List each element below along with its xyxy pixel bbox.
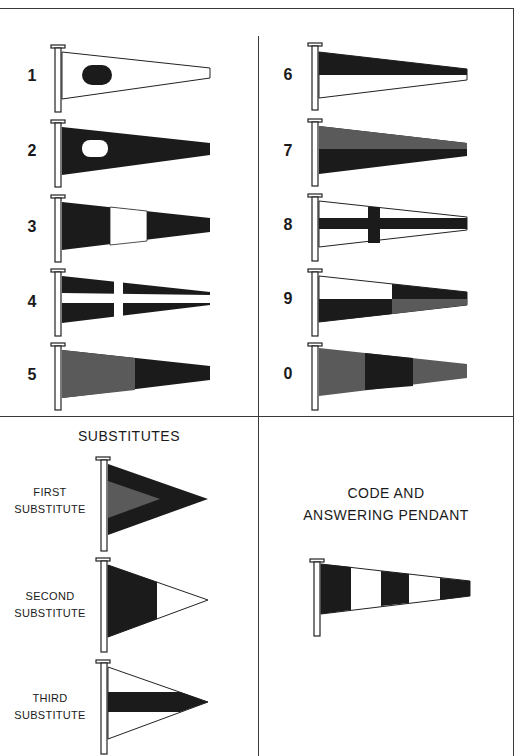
frame-right-border bbox=[513, 8, 514, 756]
substitutes-title: SUBSTITUTES bbox=[0, 428, 258, 444]
second-substitute-label: SECOND SUBSTITUTE bbox=[0, 588, 100, 622]
pendant-label-4: 4 bbox=[22, 293, 42, 311]
frame-top-border bbox=[0, 8, 514, 9]
flagpole-icon bbox=[96, 457, 110, 551]
pendant-label-3: 3 bbox=[22, 218, 42, 236]
pendant-label-2: 2 bbox=[22, 142, 42, 160]
pendant-8-flag bbox=[310, 193, 480, 261]
pendant-5-flag bbox=[50, 342, 220, 410]
pendant-1-flag bbox=[50, 44, 220, 112]
code-pendant-flag bbox=[312, 558, 482, 636]
pendant-label-7: 7 bbox=[278, 142, 298, 160]
pendant-label-1: 1 bbox=[22, 67, 42, 85]
pendant-3-flag bbox=[50, 194, 220, 262]
pendant-2-flag bbox=[50, 119, 220, 187]
pendant-label-6: 6 bbox=[278, 66, 298, 84]
first-substitute-label: FIRST SUBSTITUTE bbox=[0, 484, 100, 518]
pendant-7-flag bbox=[310, 118, 480, 186]
pendant-label-9: 9 bbox=[278, 290, 298, 308]
pendant-label-5: 5 bbox=[22, 366, 42, 384]
third-substitute-flag bbox=[95, 659, 215, 754]
pendant-label-8: 8 bbox=[278, 216, 298, 234]
pendant-label-0: 0 bbox=[278, 365, 298, 383]
frame-horizontal-divider bbox=[0, 416, 514, 417]
frame-center-divider bbox=[258, 36, 259, 756]
third-substitute-label: THIRD SUBSTITUTE bbox=[0, 690, 100, 724]
first-substitute-flag bbox=[95, 456, 215, 551]
pendant-4-flag bbox=[50, 268, 220, 336]
pendant-0-flag bbox=[310, 342, 480, 410]
pendant-6-flag bbox=[310, 42, 480, 110]
pendant-9-flag bbox=[310, 268, 480, 336]
code-pendant-title: CODE AND ANSWERING PENDANT bbox=[258, 482, 514, 526]
second-substitute-flag bbox=[95, 557, 215, 652]
